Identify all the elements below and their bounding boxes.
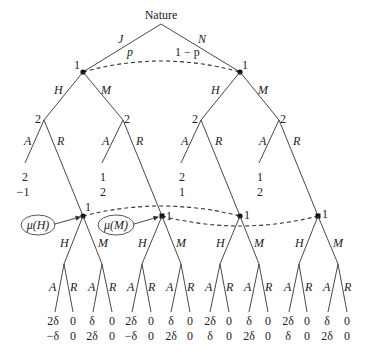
- belief-mu-H-label: μ(H): [26, 218, 50, 232]
- nature-label: Nature: [145, 8, 178, 22]
- action-R-label: R: [264, 280, 273, 294]
- action-H-label: H: [59, 236, 70, 250]
- action-A-label: A: [243, 280, 252, 294]
- player-1-label: 1: [244, 208, 250, 222]
- svg-text:0: 0: [109, 329, 115, 343]
- bottom-payoffs: 2δ−δ 00 δ2δ 00 2δ−δ 00 δ2δ 00 2δδ 00 δ2δ…: [47, 314, 350, 343]
- payoff-p1: 1: [257, 170, 263, 184]
- svg-text:0: 0: [304, 314, 310, 328]
- svg-text:0: 0: [344, 329, 350, 343]
- player-2-label: 2: [35, 112, 41, 126]
- level4-edges: [55, 264, 347, 312]
- svg-text:0: 0: [187, 314, 193, 328]
- prob-p-label: p: [126, 45, 133, 59]
- player-1-label: 1: [166, 209, 172, 223]
- action-R-label: R: [186, 280, 195, 294]
- belief-mu-M-label: μ(M): [103, 218, 128, 232]
- action-A-label: A: [126, 280, 135, 294]
- action-J-label: J: [118, 32, 124, 46]
- action-N-label: N: [197, 32, 207, 46]
- svg-text:0: 0: [226, 329, 232, 343]
- action-R-label: R: [343, 280, 352, 294]
- svg-text:2δ: 2δ: [47, 314, 59, 328]
- action-H-label: H: [294, 236, 305, 250]
- svg-text:2δ: 2δ: [86, 329, 98, 343]
- action-H-label: H: [215, 236, 226, 250]
- svg-text:δ: δ: [324, 314, 330, 328]
- svg-text:−δ: −δ: [47, 329, 60, 343]
- action-R-label: R: [135, 134, 144, 148]
- action-A-label: A: [101, 134, 110, 148]
- action-R-label: R: [225, 280, 234, 294]
- level4-action-labels: A R A R A R A R A R A R A R A R: [48, 280, 352, 294]
- info-set-level1: [83, 61, 240, 72]
- game-tree: Nature J p N 1 − p 1 1 H M H M 2 2 2 2 A…: [0, 0, 366, 355]
- svg-text:2δ: 2δ: [165, 329, 177, 343]
- arrow-icon: [55, 217, 80, 224]
- svg-text:2δ: 2δ: [125, 314, 137, 328]
- action-M-label: M: [97, 236, 109, 250]
- svg-text:0: 0: [70, 329, 76, 343]
- action-A-label: A: [87, 280, 96, 294]
- player-2-label: 2: [192, 112, 198, 126]
- player-1-label: 1: [85, 200, 91, 214]
- edge-H: [201, 72, 240, 120]
- svg-text:0: 0: [109, 314, 115, 328]
- svg-text:0: 0: [265, 314, 271, 328]
- action-A-label: A: [165, 280, 174, 294]
- action-A-label: A: [23, 134, 32, 148]
- svg-text:δ: δ: [246, 314, 252, 328]
- action-M-label: M: [332, 236, 344, 250]
- svg-text:0: 0: [344, 314, 350, 328]
- player-1-label: 1: [322, 207, 328, 221]
- svg-text:δ: δ: [285, 329, 291, 343]
- svg-text:2δ: 2δ: [282, 314, 294, 328]
- action-R-label: R: [292, 134, 301, 148]
- action-H-label: H: [137, 236, 148, 250]
- svg-text:2δ: 2δ: [204, 314, 216, 328]
- svg-text:δ: δ: [168, 314, 174, 328]
- payoff-p1: 2: [179, 170, 185, 184]
- action-A-label: A: [48, 280, 57, 294]
- action-R-label: R: [108, 280, 117, 294]
- player-1-label: 1: [74, 58, 80, 72]
- action-M-label: M: [257, 83, 269, 97]
- svg-text:2δ: 2δ: [243, 329, 255, 343]
- payoff-p1: 2: [22, 170, 28, 184]
- payoff-p2: 2: [257, 185, 263, 199]
- action-M-label: M: [100, 83, 112, 97]
- action-R-label: R: [147, 280, 156, 294]
- action-H-label: H: [210, 83, 221, 97]
- action-A-label: A: [283, 280, 292, 294]
- svg-text:0: 0: [304, 329, 310, 343]
- action-M-label: M: [175, 236, 187, 250]
- arrow-icon: [134, 217, 158, 224]
- svg-text:0: 0: [148, 314, 154, 328]
- prob-1-minus-p-label: 1 − p: [175, 45, 200, 59]
- player-1-label: 1: [242, 58, 248, 72]
- action-M-label: M: [253, 236, 265, 250]
- svg-text:0: 0: [265, 329, 271, 343]
- svg-text:0: 0: [187, 329, 193, 343]
- action-H-label: H: [53, 83, 64, 97]
- payoff-p2: −1: [17, 185, 30, 199]
- svg-text:−δ: −δ: [125, 329, 138, 343]
- action-R-label: R: [69, 280, 78, 294]
- svg-text:δ: δ: [207, 329, 213, 343]
- svg-text:0: 0: [70, 314, 76, 328]
- edge-H: [44, 72, 83, 120]
- svg-text:0: 0: [226, 314, 232, 328]
- action-A-label: A: [258, 134, 267, 148]
- action-A-label: A: [322, 280, 331, 294]
- payoff-p1: 1: [100, 170, 106, 184]
- payoff-p2: 2: [100, 185, 106, 199]
- action-R-label: R: [56, 134, 65, 148]
- svg-text:2δ: 2δ: [321, 329, 333, 343]
- svg-text:δ: δ: [89, 314, 95, 328]
- action-R-label: R: [214, 134, 223, 148]
- svg-text:0: 0: [148, 329, 154, 343]
- action-R-label: R: [304, 280, 313, 294]
- action-A-label: A: [180, 134, 189, 148]
- action-A-label: A: [204, 280, 213, 294]
- payoff-p2: 1: [179, 185, 185, 199]
